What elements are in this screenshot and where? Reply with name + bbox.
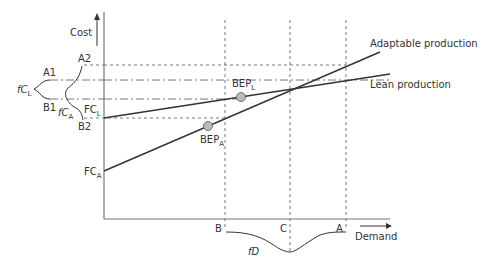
demand-distribution-curve — [226, 232, 346, 252]
b1-label: B1 — [43, 102, 56, 113]
break-even-diagram: Cost Demand Adaptable production Lean pr… — [0, 0, 498, 268]
bep-adaptable-point — [204, 122, 213, 131]
bep-lean-point — [237, 93, 246, 102]
demand-b-label: B — [215, 223, 222, 234]
lean-production-label: Lean production — [370, 79, 451, 90]
demand-arrow-head — [386, 223, 392, 229]
fc-adaptable-label: FCA — [84, 166, 102, 180]
fc-lean-label: FCL — [84, 104, 101, 118]
bep-adaptable-label: BEPA — [200, 134, 224, 148]
b2-label: B2 — [78, 121, 91, 132]
demand-c-label: C — [280, 223, 287, 234]
fc-adaptable-distribution-label: fCA — [58, 107, 74, 121]
fd-distribution-label: fD — [248, 246, 260, 257]
adaptable-production-label: Adaptable production — [370, 38, 478, 49]
demand-a-label: A — [336, 223, 343, 234]
cost-arrow-head — [94, 13, 100, 20]
x-axis-label: Demand — [355, 231, 397, 242]
a2-label: A2 — [78, 53, 91, 64]
a1-label: A1 — [43, 67, 56, 78]
fc-lean-distribution-label: fCL — [17, 84, 32, 98]
fc-lean-distribution-curve — [34, 80, 50, 99]
y-axis-label: Cost — [70, 27, 92, 38]
